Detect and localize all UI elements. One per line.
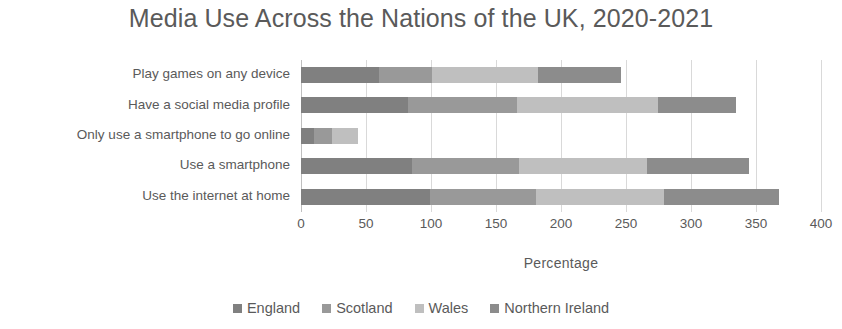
chart-container: Media Use Across the Nations of the UK, … — [0, 0, 842, 329]
legend-item[interactable]: England — [233, 300, 300, 316]
bar-row — [301, 90, 821, 120]
bar-row — [301, 151, 821, 181]
x-tick-label: 100 — [420, 216, 443, 231]
bar-segment-england[interactable] — [301, 67, 379, 83]
bar-segment-wales[interactable] — [519, 158, 646, 174]
x-tick-label: 250 — [615, 216, 638, 231]
legend-label: Northern Ireland — [504, 300, 609, 316]
bar-rows — [301, 60, 821, 212]
bar-segment-england[interactable] — [301, 158, 412, 174]
category-label: Have a social media profile — [128, 98, 290, 112]
category-label: Use the internet at home — [142, 189, 290, 203]
bar-segment-scotland[interactable] — [314, 128, 332, 144]
legend-label: Scotland — [336, 300, 392, 316]
x-tick-label: 300 — [680, 216, 703, 231]
bar-row — [301, 182, 821, 212]
legend-swatch-icon — [322, 304, 331, 313]
x-tick-label: 150 — [485, 216, 508, 231]
bar-segment-scotland[interactable] — [412, 158, 520, 174]
bar-segment-england[interactable] — [301, 97, 408, 113]
category-label: Only use a smartphone to go online — [77, 128, 290, 142]
stacked-bar[interactable] — [301, 189, 779, 205]
legend-swatch-icon — [490, 304, 499, 313]
bar-segment-wales[interactable] — [332, 128, 358, 144]
category-label: Use a smartphone — [180, 158, 290, 172]
stacked-bar[interactable] — [301, 97, 736, 113]
x-tick-label: 350 — [745, 216, 768, 231]
legend-item[interactable]: Scotland — [322, 300, 392, 316]
bar-segment-england[interactable] — [301, 128, 314, 144]
chart-title: Media Use Across the Nations of the UK, … — [0, 4, 842, 33]
bar-segment-scotland[interactable] — [379, 67, 432, 83]
x-tick-label: 0 — [297, 216, 305, 231]
bar-segment-northern-ireland[interactable] — [664, 189, 780, 205]
bar-row — [301, 121, 821, 151]
legend-swatch-icon — [415, 304, 424, 313]
legend-swatch-icon — [233, 304, 242, 313]
category-axis-labels: Play games on any deviceHave a social me… — [0, 60, 296, 212]
bar-segment-northern-ireland[interactable] — [647, 158, 750, 174]
stacked-bar[interactable] — [301, 67, 621, 83]
x-tick-label: 50 — [358, 216, 373, 231]
x-axis-tick-labels: 050100150200250300350400 — [301, 216, 821, 236]
gridline-400 — [821, 60, 822, 212]
legend-item[interactable]: Northern Ireland — [490, 300, 609, 316]
bar-segment-northern-ireland[interactable] — [538, 67, 621, 83]
bar-segment-scotland[interactable] — [430, 189, 537, 205]
legend-label: England — [247, 300, 300, 316]
stacked-bar[interactable] — [301, 158, 749, 174]
bar-row — [301, 60, 821, 90]
x-axis-title: Percentage — [301, 255, 821, 271]
bar-segment-scotland[interactable] — [408, 97, 517, 113]
bar-segment-northern-ireland[interactable] — [658, 97, 736, 113]
bar-segment-wales[interactable] — [517, 97, 659, 113]
bar-segment-wales[interactable] — [432, 67, 537, 83]
x-tick-label: 400 — [810, 216, 833, 231]
category-label: Play games on any device — [132, 67, 290, 81]
bar-segment-wales[interactable] — [536, 189, 663, 205]
legend-label: Wales — [429, 300, 469, 316]
bar-segment-england[interactable] — [301, 189, 430, 205]
plot-area — [301, 60, 821, 212]
stacked-bar[interactable] — [301, 128, 358, 144]
x-tick-label: 200 — [550, 216, 573, 231]
chart-legend: EnglandScotlandWalesNorthern Ireland — [0, 300, 842, 316]
legend-item[interactable]: Wales — [415, 300, 469, 316]
